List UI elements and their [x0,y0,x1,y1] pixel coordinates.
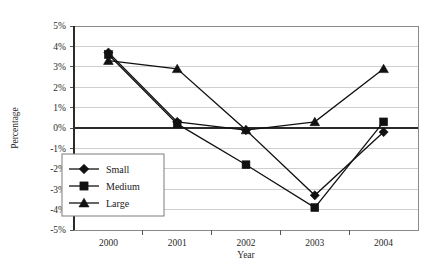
y-axis-title: Percentage [10,107,20,149]
data-point [311,204,319,212]
x-tick-label: 2002 [237,238,256,248]
x-axis-title: Year [237,250,255,260]
x-tick-label: 2000 [99,238,118,248]
data-point [380,118,388,126]
y-tick-label: 5% [53,21,66,31]
legend-label: Medium [106,181,140,192]
x-tick-label: 2003 [305,238,324,248]
y-tick-label: 3% [53,62,66,72]
x-tick-label: 2001 [168,238,187,248]
legend-label: Small [106,164,130,175]
y-tick-label: 4% [53,42,66,52]
y-tick-label: -5% [50,225,66,235]
chart-legend: SmallMediumLarge [62,154,164,216]
y-tick-label: -1% [50,144,66,154]
y-tick-label: 1% [53,103,66,113]
y-tick-label: 0% [53,123,66,133]
x-axis-tick-labels: 20002001200220032004 [99,238,393,248]
x-axis-ticks [143,230,349,235]
figure-container: 5%4%3%2%1%0%-1%-2%-3%-4%-5% 200020012002… [0,0,437,271]
y-tick-label: 2% [53,83,66,93]
data-point [242,161,250,169]
x-tick-label: 2004 [374,238,393,248]
legend-label: Large [106,198,130,209]
legend-marker-square-icon [80,182,88,190]
data-point [173,120,181,128]
line-chart: 5%4%3%2%1%0%-1%-2%-3%-4%-5% 200020012002… [0,0,437,271]
